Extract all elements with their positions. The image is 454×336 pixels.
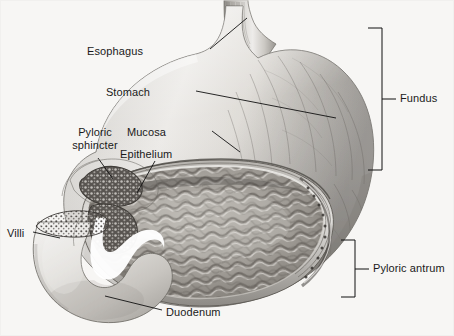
label-duodenum-text: Duodenum <box>166 306 221 318</box>
label-pyloric-sphincter: Pyloric sphincter <box>62 126 128 151</box>
label-fundus-text: Fundus <box>400 92 437 104</box>
stomach-illustration <box>0 0 454 336</box>
label-mucosa: Mucosa <box>127 126 166 138</box>
label-pyloric-sphincter-line1: Pyloric <box>78 126 112 138</box>
label-pyloric-sphincter-line2: sphincter <box>72 139 118 151</box>
label-mucosa-text: Mucosa <box>127 126 166 138</box>
label-pyloric-antrum-text: Pyloric antrum <box>373 262 445 274</box>
label-villi-text: Villi <box>7 227 24 239</box>
label-pyloric-antrum: Pyloric antrum <box>373 262 445 274</box>
label-esophagus: Esophagus <box>87 45 143 57</box>
label-stomach: Stomach <box>106 86 150 98</box>
label-villi: Villi <box>7 227 24 239</box>
label-stomach-text: Stomach <box>106 86 150 98</box>
label-duodenum: Duodenum <box>166 306 221 318</box>
label-esophagus-text: Esophagus <box>87 45 143 57</box>
label-fundus: Fundus <box>400 92 437 104</box>
stomach-anatomy-figure: Esophagus Stomach Mucosa Epithelium Pylo… <box>0 0 454 336</box>
